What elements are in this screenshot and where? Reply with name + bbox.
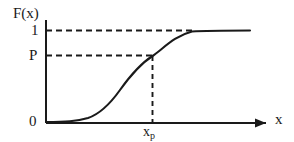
x-tick-label-xp: xp xyxy=(143,125,155,141)
x-axis-label: x xyxy=(275,112,283,127)
y-tick-label-p: P xyxy=(29,48,37,63)
cdf-figure: F(x) 1 P 0 x xp xyxy=(0,0,294,142)
y-axis-label: F(x) xyxy=(13,6,39,21)
plot-canvas xyxy=(0,0,294,142)
x-tick-label-xp-base: x xyxy=(143,124,150,139)
cdf-curve xyxy=(46,31,250,123)
y-tick-label-one: 1 xyxy=(31,23,39,38)
origin-label: 0 xyxy=(29,114,37,129)
x-tick-label-xp-subscript: p xyxy=(150,130,155,141)
x-axis-arrowhead xyxy=(255,118,266,127)
